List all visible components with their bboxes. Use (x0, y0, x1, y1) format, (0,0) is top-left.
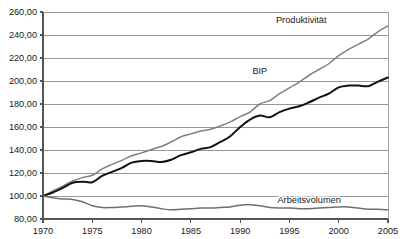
series-label-produktivit-t: Produktivität (276, 15, 327, 25)
x-tick-label: 1970 (33, 226, 53, 236)
x-axis-tick-labels: 19701975198019851990199520002005 (33, 226, 398, 236)
y-tick-label: 100,00 (9, 191, 37, 201)
y-tick-label: 200,00 (9, 76, 37, 86)
x-tick-label: 1980 (131, 226, 151, 236)
x-tick-label: 1975 (82, 226, 102, 236)
series-line-produktivit-t (43, 26, 388, 196)
y-tick-label: 80,00 (14, 214, 37, 224)
x-tick-label: 1990 (230, 226, 250, 236)
y-tick-label: 240,00 (9, 30, 37, 40)
chart-container: 80,00100,00120,00140,00160,00180,00200,0… (0, 0, 400, 239)
y-tick-label: 160,00 (9, 122, 37, 132)
data-series (43, 26, 388, 210)
series-label-arbeitsvolumen: Arbeitsvolumen (277, 195, 340, 205)
series-label-bip: BIP (252, 66, 267, 76)
series-line-bip (43, 78, 388, 196)
y-axis-tick-labels: 80,00100,00120,00140,00160,00180,00200,0… (9, 7, 37, 224)
series-annotations: ProduktivitätProduktivitätBIPBIPArbeitsv… (252, 15, 340, 206)
y-tick-label: 180,00 (9, 99, 37, 109)
x-tick-label: 1995 (279, 226, 299, 236)
x-tick-label: 1985 (181, 226, 201, 236)
y-tick-label: 260,00 (9, 7, 37, 17)
line-chart: 80,00100,00120,00140,00160,00180,00200,0… (0, 0, 400, 239)
y-tick-label: 220,00 (9, 53, 37, 63)
y-tick-label: 140,00 (9, 145, 37, 155)
axis-tickmarks (40, 12, 389, 223)
y-tick-label: 120,00 (9, 168, 37, 178)
x-tick-label: 2005 (378, 226, 398, 236)
gridlines (43, 12, 388, 196)
x-tick-label: 2000 (328, 226, 348, 236)
